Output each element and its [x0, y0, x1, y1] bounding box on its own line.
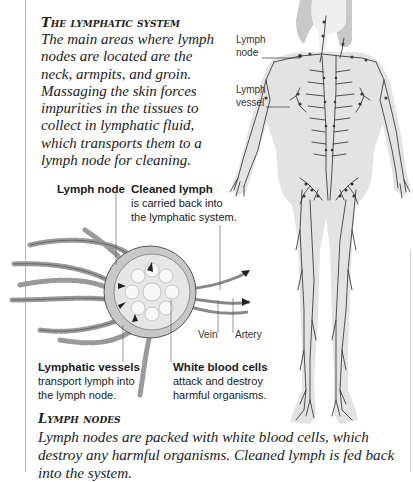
label-lymph-node-body: Lymph node — [236, 34, 266, 59]
intro-body: The main areas where lymph nodes are loc… — [41, 31, 221, 169]
outro-heading: Lymph nodes — [38, 411, 410, 427]
outro-body: Lymph nodes are packed with white blood … — [38, 428, 410, 482]
label-white-blood-cells: White blood cells attack and destroy har… — [173, 360, 273, 402]
intro-section: The lymphatic system The main areas wher… — [41, 15, 221, 169]
intro-heading: The lymphatic system — [41, 15, 221, 31]
outro-section: Lymph nodes Lymph nodes are packed with … — [38, 411, 410, 482]
label-lymphatic-vessels: Lymphatic vessels transport lymph into t… — [38, 360, 148, 402]
label-lymph-vessel-body: Lymph vessel — [236, 84, 266, 109]
label-lymph-node: Lymph node — [57, 182, 125, 196]
label-cleaned-lymph: Cleaned lymph is carried back into the l… — [131, 182, 241, 224]
label-vein: Vein — [198, 329, 217, 342]
label-artery: Artery — [235, 329, 262, 342]
